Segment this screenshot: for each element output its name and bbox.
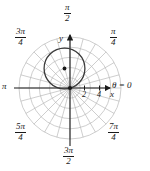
- angle-label-pi-over-2-denominator: 2: [64, 14, 71, 23]
- angle-label-3pi-over-2-numerator: 3π: [63, 146, 74, 155]
- angle-label-pi: π: [2, 82, 7, 91]
- x-tick-label-4: 4: [97, 91, 101, 99]
- y-axis-label: y: [59, 34, 63, 43]
- pole-point-marker: [68, 86, 72, 90]
- angle-label-3pi-over-4: 3π 4: [15, 27, 26, 48]
- angle-label-pi-over-2: π 2: [64, 3, 71, 24]
- angle-label-pi-over-4-numerator: π: [110, 27, 117, 36]
- x-axis-label: x: [110, 90, 114, 99]
- angle-label-pi-over-4-denominator: 4: [110, 38, 117, 47]
- x-tick-label-2: 2: [82, 91, 86, 99]
- angle-label-7pi-over-4-denominator: 4: [108, 133, 119, 142]
- angle-label-3pi-over-4-numerator: 3π: [15, 27, 26, 36]
- angle-label-3pi-over-4-denominator: 4: [15, 38, 26, 47]
- polar-axis-label-theta-zero: θ = 0: [112, 81, 132, 90]
- angle-label-pi-over-4: π 4: [110, 27, 117, 48]
- angle-label-7pi-over-4-numerator: 7π: [108, 122, 119, 131]
- angle-label-pi-over-2-numerator: π: [64, 3, 71, 12]
- angle-label-5pi-over-4-numerator: 5π: [15, 122, 26, 131]
- center-point-marker: [63, 67, 67, 71]
- angle-label-5pi-over-4-denominator: 4: [15, 133, 26, 142]
- angle-label-7pi-over-4: 7π 4: [108, 122, 119, 143]
- angle-label-3pi-over-2: 3π 2: [63, 146, 74, 167]
- polar-graph-figure: π 2 3π 4 π 4 π θ = 0 x y 2 4 5π 4 7π: [0, 0, 150, 171]
- angle-label-3pi-over-2-denominator: 2: [63, 157, 74, 166]
- angle-label-5pi-over-4: 5π 4: [15, 122, 26, 143]
